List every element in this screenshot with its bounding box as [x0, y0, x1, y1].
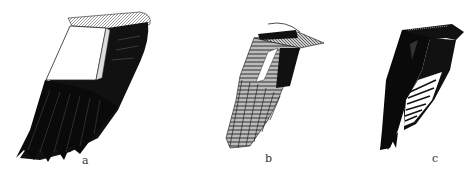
wing-panel-c: c: [360, 0, 473, 176]
panel-label-a: a: [82, 154, 89, 167]
panel-label-c: c: [432, 152, 438, 165]
wing-c-illustration: [360, 0, 473, 176]
panel-label-b: b: [265, 152, 272, 165]
wing-panel-b: b: [200, 0, 340, 176]
wing-b-illustration: [200, 0, 340, 176]
wing-a-illustration: [0, 0, 170, 176]
wing-panel-a: a: [0, 0, 170, 176]
